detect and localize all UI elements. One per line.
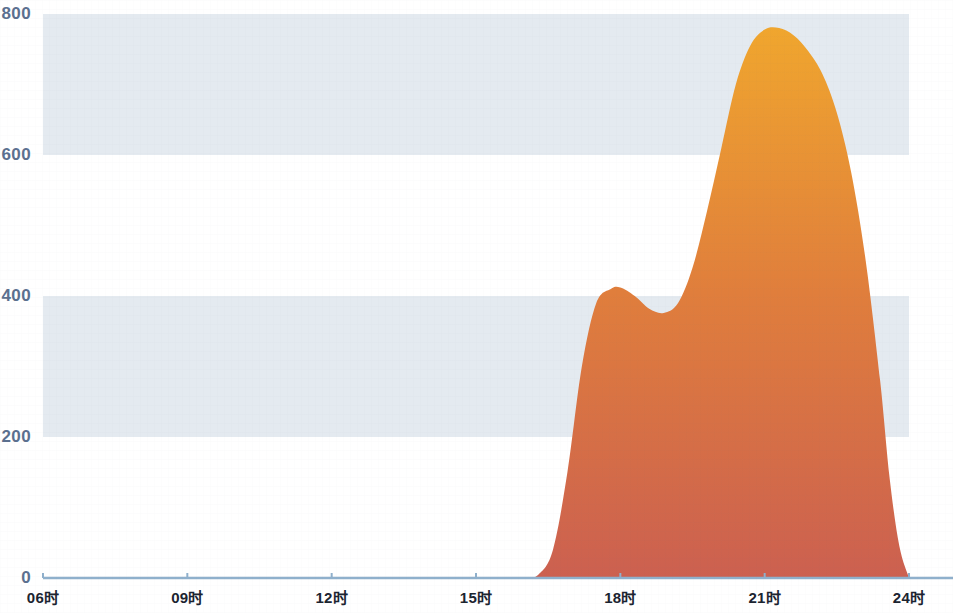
x-axis-tick-label: 24时	[893, 589, 925, 606]
y-axis-tick-label: 400	[1, 286, 31, 305]
y-axis-tick-label: 800	[1, 4, 31, 23]
y-axis-tick-label: 600	[1, 145, 31, 164]
y-axis-tick-labels: 0200400600800	[1, 4, 31, 587]
x-axis-tick-label: 18时	[604, 589, 636, 606]
chart-canvas: 0200400600800 06时09时12时15时18时21时24时	[0, 0, 953, 613]
y-axis-tick-label: 0	[21, 568, 31, 587]
x-axis-tick-label: 09时	[171, 589, 203, 606]
x-axis-tick-label: 12时	[316, 589, 348, 606]
x-axis-tick-label: 21时	[749, 589, 781, 606]
y-axis-tick-label: 200	[1, 427, 31, 446]
area-chart-figure: 0200400600800 06时09时12时15时18时21时24时	[0, 0, 953, 613]
x-axis-tick-labels: 06时09时12时15时18时21时24时	[27, 589, 925, 606]
x-axis-tick-label: 15时	[460, 589, 492, 606]
x-axis-tick-label: 06时	[27, 589, 59, 606]
